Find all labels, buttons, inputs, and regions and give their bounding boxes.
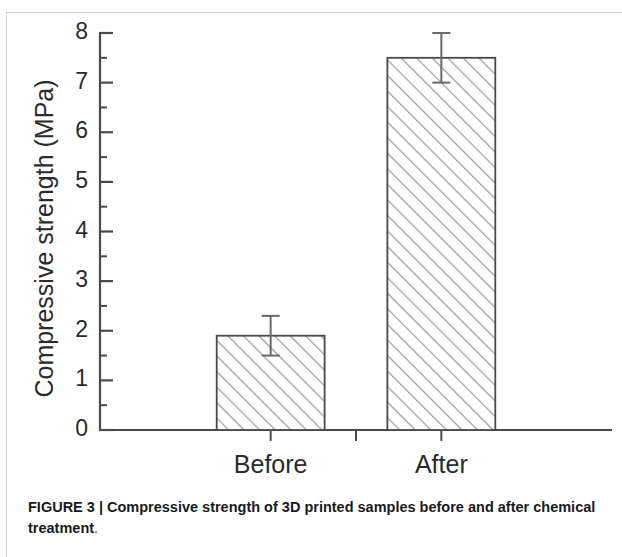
figure-caption-period: . bbox=[94, 520, 98, 536]
figure-caption: FIGURE 3 | Compressive strength of 3D pr… bbox=[28, 497, 598, 539]
chart-axes bbox=[99, 32, 612, 441]
x-axis-category-label-after: After bbox=[341, 450, 541, 479]
y-axis-tick-label: 0 bbox=[62, 415, 88, 442]
bar-fill bbox=[387, 58, 495, 430]
y-axis-tick-label: 1 bbox=[62, 365, 88, 392]
y-axis-tick-label: 5 bbox=[62, 167, 88, 194]
bar-chart-svg bbox=[0, 0, 622, 480]
y-axis-tick-label: 2 bbox=[62, 316, 88, 343]
y-axis-tick-label: 4 bbox=[62, 217, 88, 244]
chart-plot-area: Compressive strength (MPa) 012345678 Bef… bbox=[0, 0, 622, 480]
y-axis-tick-label: 6 bbox=[62, 117, 88, 144]
figure-container: Compressive strength (MPa) 012345678 Bef… bbox=[0, 0, 622, 557]
y-axis-title: Compressive strength (MPa) bbox=[30, 29, 59, 449]
chart-bars bbox=[217, 58, 496, 430]
y-axis-tick-label: 8 bbox=[62, 18, 88, 45]
y-axis-tick-label: 7 bbox=[62, 68, 88, 95]
y-axis-tick-label: 3 bbox=[62, 266, 88, 293]
figure-caption-main: FIGURE 3 | Compressive strength of 3D pr… bbox=[28, 499, 595, 536]
